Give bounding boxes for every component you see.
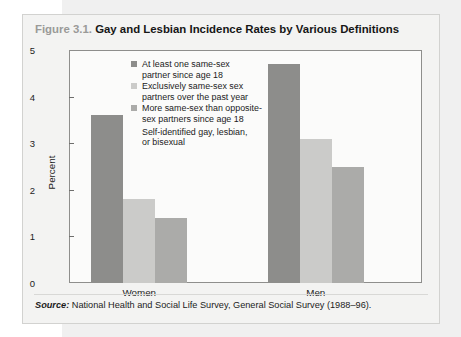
legend-item: Exclusively same-sex sex partners over t… — [131, 81, 321, 102]
y-axis-tick-label: 3 — [15, 138, 35, 149]
y-axis-tick-label: 2 — [15, 184, 35, 195]
bar — [91, 115, 123, 283]
bar — [300, 139, 332, 283]
source-note: Source: National Health and Social Life … — [35, 300, 371, 310]
source-divider — [34, 294, 428, 295]
legend-label-cont: partners over the past year — [142, 92, 248, 102]
source-label: Source: — [35, 300, 69, 310]
source-text: National Health and Social Life Survey, … — [72, 300, 372, 310]
legend-label: At least one same-sex — [142, 59, 230, 69]
figure-container: Figure 3.1. Gay and Lesbian Incidence Ra… — [22, 14, 440, 324]
y-axis-tick-label: 4 — [15, 91, 35, 102]
y-axis-tick-label: 1 — [15, 231, 35, 242]
figure-title-text: Gay and Lesbian Incidence Rates by Vario… — [95, 23, 399, 35]
legend-item: At least one same-sex partner since age … — [131, 59, 321, 80]
legend-note-line-1: Self-identified gay, lesbian, — [142, 127, 247, 137]
bar — [155, 218, 187, 283]
legend-swatch-icon — [131, 105, 137, 111]
bar — [332, 167, 364, 284]
y-axis-tick-mark — [69, 97, 74, 98]
y-axis-tick-mark — [69, 143, 74, 144]
bar — [123, 199, 155, 283]
figure-number: Figure 3.1. — [35, 23, 92, 35]
legend-label: More same-sex than opposite- — [142, 103, 262, 113]
y-axis-title: Percent — [46, 133, 57, 213]
legend-item: More same-sex than opposite- sex partner… — [131, 103, 321, 124]
figure-title: Figure 3.1. Gay and Lesbian Incidence Ra… — [35, 22, 435, 36]
x-axis-category-label: Men — [306, 287, 325, 298]
legend-label: Exclusively same-sex sex — [142, 81, 243, 91]
legend-note: Self-identified gay, lesbian, or bisexua… — [131, 127, 321, 148]
legend-note-line-2: or bisexual — [142, 137, 185, 147]
y-axis-tick-label: 5 — [15, 45, 35, 56]
legend-label-cont: partner since age 18 — [142, 70, 223, 80]
legend-label-cont: sex partners since age 18 — [142, 114, 244, 124]
legend-swatch-icon — [131, 83, 137, 89]
y-axis-tick-label: 0 — [15, 278, 35, 289]
y-axis-tick-mark — [69, 236, 74, 237]
chart-legend: At least one same-sex partner since age … — [131, 59, 321, 148]
y-axis-tick-mark — [69, 190, 74, 191]
legend-swatch-icon — [131, 61, 137, 67]
x-axis-category-label: Women — [122, 287, 156, 298]
